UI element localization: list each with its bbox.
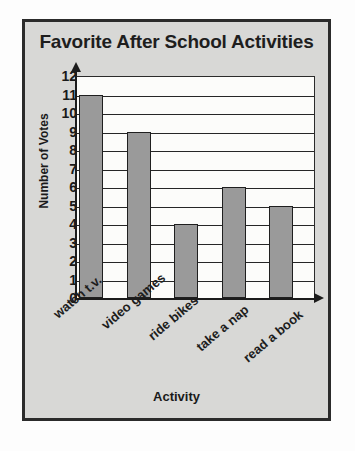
y-axis-arrowhead-icon	[71, 62, 81, 72]
scanned-page: Favorite After School Activities Number …	[0, 0, 355, 451]
y-tick-label: 5	[49, 199, 77, 213]
y-tick-label: 11	[49, 88, 77, 102]
bar	[174, 224, 198, 298]
chart-figure-frame: Favorite After School Activities Number …	[22, 19, 331, 421]
x-axis-title: Activity	[25, 389, 328, 404]
bar	[127, 132, 151, 299]
y-tick-label: 4	[49, 217, 77, 231]
bar	[222, 187, 246, 298]
y-tick-label: 3	[49, 236, 77, 250]
chart-title: Favorite After School Activities	[25, 31, 328, 53]
y-tick-label: 1	[49, 273, 77, 287]
y-tick-label: 7	[49, 162, 77, 176]
y-tick-label: 10	[49, 106, 77, 120]
bar	[79, 95, 103, 299]
y-tick-label: 9	[49, 125, 77, 139]
y-tick-label: 8	[49, 143, 77, 157]
y-axis-tick-labels: 1211109876543210	[49, 70, 77, 298]
x-category-label: read a book	[241, 307, 307, 365]
x-axis-arrowhead-icon	[314, 293, 324, 303]
bar-series	[77, 77, 314, 298]
bar	[269, 206, 293, 299]
plot-area	[77, 76, 315, 298]
x-category-label: ride bikes	[145, 293, 201, 344]
y-tick-label: 2	[49, 254, 77, 268]
y-tick-label: 6	[49, 180, 77, 194]
x-category-label: take a nap	[193, 302, 251, 354]
y-axis-line	[75, 70, 77, 300]
